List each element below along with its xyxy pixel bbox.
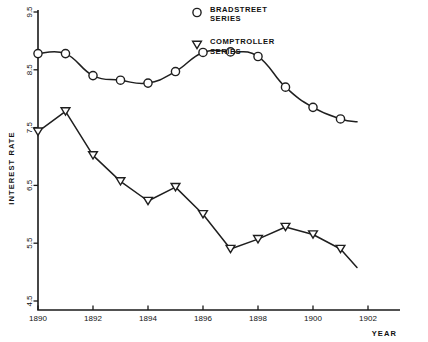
circle-marker-icon [193, 8, 201, 16]
legend-entry-bradstreet: BRADSTREET SERIES [193, 5, 268, 24]
triangle-down-marker-icon [226, 245, 235, 252]
circle-marker-icon [89, 71, 97, 79]
circle-marker-icon [336, 115, 344, 123]
circle-marker-icon [34, 50, 42, 58]
chart-legend: BRADSTREET SERIES COMPTROLLER SERIES [193, 5, 275, 56]
y-tick-label: 9.5 [25, 6, 34, 18]
chart-canvas: 9.58.57.56.55.54.5 189018921894189618981… [0, 0, 428, 342]
triangle-down-marker-icon [309, 231, 318, 238]
legend-label-bradstreet-line1: BRADSTREET [210, 5, 267, 14]
series-line-comptroller [38, 111, 357, 267]
circle-marker-icon [309, 103, 317, 111]
triangle-down-marker-icon [193, 41, 202, 48]
x-tick-label: 1898 [249, 314, 267, 323]
y-tick-label: 5.5 [25, 237, 34, 249]
interest-rate-line-chart: 9.58.57.56.55.54.5 189018921894189618981… [0, 0, 428, 342]
triangle-down-marker-icon [199, 211, 208, 218]
series-bradstreet [34, 48, 357, 123]
circle-marker-icon [199, 48, 207, 56]
circle-marker-icon [254, 52, 262, 60]
circle-marker-icon [116, 76, 124, 84]
x-tick-label: 1894 [139, 314, 157, 323]
x-tick-label: 1892 [84, 314, 102, 323]
y-axis-tick-labels: 9.58.57.56.55.54.5 [25, 6, 34, 307]
triangle-down-marker-icon [144, 197, 153, 204]
y-axis-title: INTEREST RATE [7, 131, 16, 204]
triangle-down-marker-icon [34, 128, 43, 135]
triangle-down-marker-icon [281, 223, 290, 230]
x-tick-label: 1896 [194, 314, 212, 323]
x-tick-label: 1890 [29, 314, 47, 323]
x-tick-label: 1902 [359, 314, 377, 323]
circle-marker-icon [281, 83, 289, 91]
circle-marker-icon [61, 50, 69, 58]
y-tick-label: 4.5 [25, 295, 34, 307]
y-tick-label: 6.5 [25, 179, 34, 191]
x-tick-label: 1900 [304, 314, 322, 323]
legend-label-comptroller-line2: SERIES [210, 47, 241, 56]
series-line-bradstreet [35, 50, 357, 122]
legend-label-bradstreet-line2: SERIES [210, 14, 241, 23]
triangle-down-marker-icon [254, 236, 263, 243]
circle-marker-icon [144, 79, 152, 87]
x-axis-title: YEAR [372, 329, 397, 338]
legend-label-comptroller-line1: COMPTROLLER [210, 37, 275, 46]
y-tick-label: 8.5 [25, 64, 34, 76]
series-comptroller [34, 108, 357, 268]
x-axis-tick-labels: 1890189218941896189819001902 [29, 314, 377, 323]
circle-marker-icon [171, 67, 179, 75]
